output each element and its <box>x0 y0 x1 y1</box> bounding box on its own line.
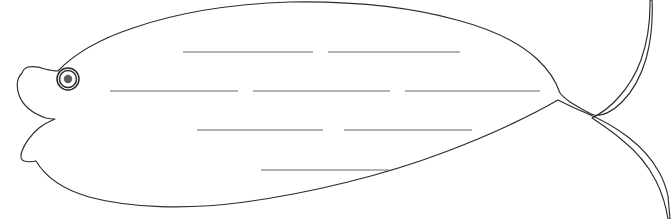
fish-body-path <box>17 0 670 219</box>
fish-eye-pupil <box>64 75 72 83</box>
fish-eye <box>57 68 79 90</box>
fish-worksheet <box>0 0 671 219</box>
fish-outline-drawing <box>0 0 671 219</box>
